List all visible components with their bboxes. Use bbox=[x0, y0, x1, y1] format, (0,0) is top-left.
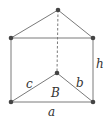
prism-diagram: c B b a h bbox=[0, 0, 107, 122]
edge-bottom-b bbox=[57, 73, 93, 102]
vertex-bottom-back bbox=[55, 71, 60, 76]
label-h: h bbox=[96, 57, 104, 71]
label-B: B bbox=[50, 86, 60, 100]
label-a: a bbox=[48, 105, 55, 119]
vertex-bottom-left bbox=[9, 100, 14, 105]
vertex-bottom-right bbox=[91, 100, 96, 105]
vertex-top-back bbox=[56, 8, 61, 13]
edge-top-left-to-back bbox=[11, 10, 58, 38]
prism-svg: c B b a h bbox=[0, 0, 107, 122]
label-b: b bbox=[76, 76, 84, 90]
label-c: c bbox=[26, 77, 33, 91]
edge-back-vertical-hidden bbox=[57, 10, 58, 73]
vertex-top-right bbox=[91, 36, 96, 41]
edge-top-back-to-right bbox=[58, 10, 93, 38]
vertex-top-left bbox=[9, 36, 14, 41]
